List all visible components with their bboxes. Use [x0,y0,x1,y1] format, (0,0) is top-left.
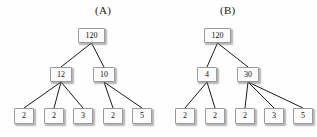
node-b-leaf-4: 3 [264,108,284,124]
node-a-leaf-4: 2 [103,108,123,124]
node-b-mid-2: 30 [237,67,259,82]
node-a-mid-2: 10 [93,67,115,82]
node-b-leaf-2: 2 [205,108,225,124]
diagram-canvas: (A)120121022325(B)12043022235 [0,0,317,137]
tree-edge [207,43,218,67]
tree-edge [92,43,105,67]
tree-edge [24,82,61,108]
node-a-leaf-3: 3 [73,108,93,124]
tree-edge [207,82,215,108]
tree-edge [104,82,113,108]
node-a-root: 120 [78,28,105,43]
tree-edge [104,82,142,108]
tree-edge [185,82,207,108]
tree-label-a: (A) [95,4,111,16]
node-a-leaf-1: 2 [14,108,34,124]
node-a-leaf-2: 2 [44,108,64,124]
tree-edge [61,82,83,108]
tree-edge [61,43,92,67]
node-b-leaf-3: 2 [235,108,255,124]
node-b-root: 120 [204,28,231,43]
tree-edge [248,82,303,108]
tree-edge [54,82,61,108]
tree-edge [248,82,274,108]
tree-edge [245,82,248,108]
node-b-leaf-5: 5 [293,108,313,124]
node-a-leaf-5: 5 [132,108,152,124]
tree-label-b: (B) [220,4,236,16]
tree-edge [218,43,249,67]
node-a-mid-1: 12 [50,67,72,82]
node-b-mid-1: 4 [197,67,217,82]
node-b-leaf-1: 2 [175,108,195,124]
